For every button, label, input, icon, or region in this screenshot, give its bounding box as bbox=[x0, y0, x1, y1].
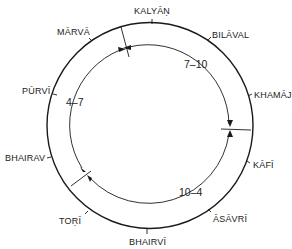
tick-marva bbox=[89, 38, 92, 41]
outer-circle bbox=[47, 23, 253, 229]
time-period-7-10: 7–10 bbox=[184, 58, 208, 70]
label-asavri: ĀSĀVRĪ bbox=[213, 214, 248, 224]
tick-bilaval bbox=[208, 37, 211, 40]
tick-tori bbox=[85, 211, 88, 214]
arrowhead-icon bbox=[227, 130, 233, 137]
inner-arc-10-4 bbox=[90, 134, 229, 203]
arrowhead-icon bbox=[80, 167, 86, 172]
arrowhead-icon bbox=[227, 120, 233, 127]
time-period-10-4: 10–4 bbox=[179, 186, 203, 198]
label-bhairvi: BHAIRVĪ bbox=[129, 237, 167, 247]
label-bilaval: BILĀVAL bbox=[212, 30, 249, 40]
tick-bhairav bbox=[47, 157, 51, 158]
label-marva: MĀRVĀ bbox=[57, 27, 90, 37]
raga-time-cycle-diagram: KALYĀṆ BILĀVAL KHAMĀJ KĀFĪ ĀSĀVRĪ BHAIRV… bbox=[0, 0, 292, 249]
inner-arc-4-7 bbox=[70, 50, 120, 168]
divider-right bbox=[221, 129, 251, 130]
inner-arc-7-10 bbox=[129, 45, 229, 124]
time-period-4-7: 4–7 bbox=[66, 96, 84, 108]
label-kafi: KĀFĪ bbox=[253, 160, 274, 170]
divider-lower-left bbox=[71, 171, 91, 186]
divider-top bbox=[121, 27, 129, 57]
label-tori: TOṚĪ bbox=[59, 216, 81, 226]
label-kalyan: KALYĀṆ bbox=[134, 6, 170, 16]
tick-purvi bbox=[53, 94, 57, 95]
label-purvi: PŪRVĪ bbox=[22, 86, 51, 96]
label-khamaj: KHAMĀJ bbox=[254, 90, 292, 100]
label-bhairav: BHAIRAV bbox=[5, 153, 45, 163]
tick-kafi bbox=[247, 161, 250, 163]
arrowhead-icon bbox=[87, 175, 92, 182]
